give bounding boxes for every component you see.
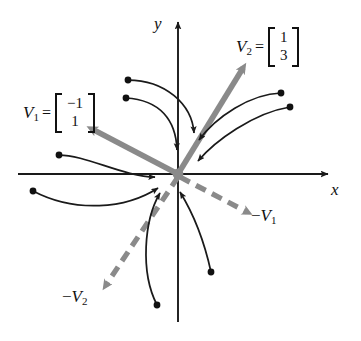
equals-sign: = — [42, 105, 51, 121]
right-bracket — [88, 93, 95, 133]
negative-eigenvector-v2-label: −V2 — [62, 288, 87, 307]
phase-portrait-figure: y x V2 = 1 3 V1 = −1 1 — [0, 0, 361, 341]
minus-sign: − — [251, 206, 261, 225]
trajectory-start-dot — [154, 302, 161, 309]
trajectory-curve — [33, 188, 158, 206]
trajectory-start-dot — [208, 269, 215, 276]
eigenvector-v2-label: V2 = 1 3 — [236, 27, 299, 67]
trajectory-curve — [128, 80, 194, 133]
trajectory-start-dot — [125, 77, 132, 84]
trajectory-curve — [180, 192, 211, 272]
trajectory-start-dot — [278, 90, 285, 97]
matrix-entry: 1 — [280, 29, 288, 47]
right-bracket — [292, 27, 299, 67]
x-axis-label: x — [331, 181, 339, 198]
trajectory-curve — [59, 155, 155, 177]
eigenvector-v2-matrix: 1 3 — [268, 27, 300, 67]
matrix-entry: 3 — [280, 47, 288, 65]
matrix-entry: −1 — [67, 95, 83, 113]
trajectory-curve — [199, 93, 281, 140]
trajectory-start-dot — [287, 104, 294, 111]
matrix-entry: 1 — [71, 113, 79, 131]
left-bracket — [55, 93, 62, 133]
trajectory-curve — [126, 98, 177, 150]
trajectory-start-dot — [56, 152, 63, 159]
trajectory-start-dot — [123, 95, 130, 102]
eigenvector-v1-name: V1 — [23, 104, 39, 123]
y-axis-label: y — [154, 15, 162, 32]
minus-sign: − — [62, 287, 72, 306]
eigenvector-v1-label: V1 = −1 1 — [23, 93, 95, 133]
trajectories-layer — [0, 0, 361, 341]
trajectory-curve — [146, 193, 160, 305]
eigenvector-v1-matrix: −1 1 — [55, 93, 95, 133]
equals-sign: = — [255, 39, 264, 55]
negative-eigenvector-v1-label: −V1 — [251, 207, 276, 226]
eigenvector-v2-name: V2 — [236, 38, 252, 57]
trajectory-start-dot — [30, 188, 37, 195]
left-bracket — [268, 27, 275, 67]
trajectory-curve — [198, 107, 290, 161]
